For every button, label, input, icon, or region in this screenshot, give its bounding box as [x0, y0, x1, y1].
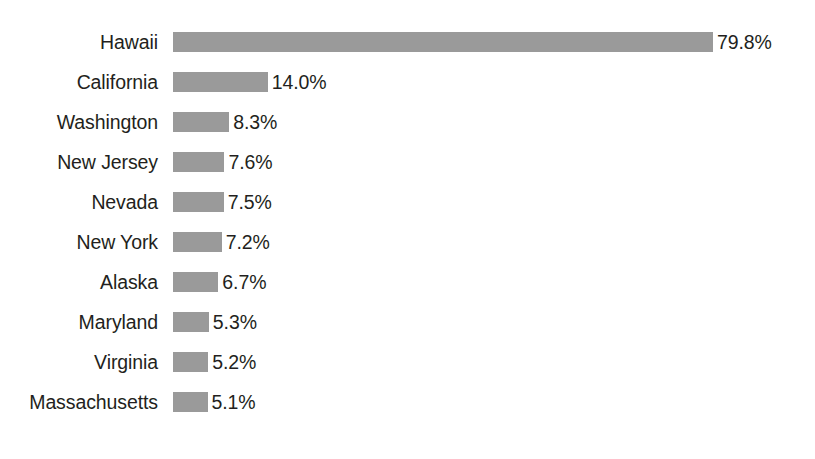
bar-chart-row: Washington8.3% [0, 107, 815, 137]
bar-category-label: Nevada [0, 187, 158, 217]
bar-chart-row: New York7.2% [0, 227, 815, 257]
bar-rect [173, 72, 268, 92]
bar-track: 5.1% [173, 387, 256, 417]
bar-rect [173, 312, 209, 332]
bar-track: 7.6% [173, 147, 272, 177]
bar-rect [173, 152, 224, 172]
bar-value-label: 8.3% [233, 107, 277, 137]
bar-category-label: Hawaii [0, 27, 158, 57]
bar-category-label: Virginia [0, 347, 158, 377]
bar-chart-row: Nevada7.5% [0, 187, 815, 217]
bar-track: 8.3% [173, 107, 277, 137]
bar-value-label: 5.1% [212, 387, 256, 417]
bar-track: 5.3% [173, 307, 257, 337]
bar-category-label: New York [0, 227, 158, 257]
bar-chart-row: California14.0% [0, 67, 815, 97]
bar-chart-row: Hawaii79.8% [0, 27, 815, 57]
bar-track: 79.8% [173, 27, 772, 57]
bar-chart: Hawaii79.8%California14.0%Washington8.3%… [0, 0, 815, 459]
bar-rect [173, 272, 218, 292]
bar-category-label: California [0, 67, 158, 97]
bar-track: 7.2% [173, 227, 270, 257]
bar-chart-row: Alaska6.7% [0, 267, 815, 297]
bar-value-label: 5.3% [213, 307, 257, 337]
bar-rect [173, 392, 208, 412]
bar-chart-row: Massachusetts5.1% [0, 387, 815, 417]
bar-value-label: 14.0% [272, 67, 327, 97]
bar-category-label: New Jersey [0, 147, 158, 177]
bar-category-label: Maryland [0, 307, 158, 337]
bar-chart-plot-area: Hawaii79.8%California14.0%Washington8.3%… [0, 0, 815, 459]
bar-rect [173, 112, 229, 132]
bar-category-label: Alaska [0, 267, 158, 297]
bar-category-label: Washington [0, 107, 158, 137]
bar-track: 14.0% [173, 67, 327, 97]
bar-rect [173, 352, 208, 372]
bar-track: 6.7% [173, 267, 266, 297]
bar-track: 7.5% [173, 187, 272, 217]
bar-value-label: 79.8% [717, 27, 772, 57]
bar-track: 5.2% [173, 347, 256, 377]
bar-chart-row: New Jersey7.6% [0, 147, 815, 177]
bar-chart-row: Maryland5.3% [0, 307, 815, 337]
bar-value-label: 7.6% [228, 147, 272, 177]
bar-value-label: 6.7% [222, 267, 266, 297]
bar-category-label: Massachusetts [0, 387, 158, 417]
bar-rect [173, 232, 222, 252]
bar-rect [173, 32, 713, 52]
bar-rect [173, 192, 224, 212]
bar-value-label: 7.2% [226, 227, 270, 257]
bar-value-label: 5.2% [212, 347, 256, 377]
bar-value-label: 7.5% [228, 187, 272, 217]
bar-chart-row: Virginia5.2% [0, 347, 815, 377]
